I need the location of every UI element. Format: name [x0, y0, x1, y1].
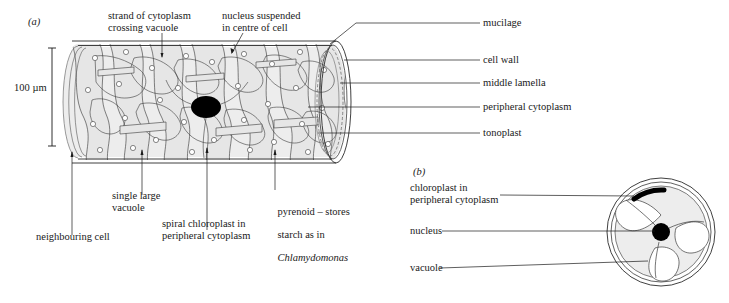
label-b-nucleus: nucleus — [410, 225, 442, 237]
label-single-large-vacuole: single large vacuole — [112, 190, 161, 213]
part-label-b: (b) — [413, 166, 425, 177]
label-strand-of-cytoplasm: strand of cytoplasm crossing vacuole — [108, 10, 191, 33]
label-pyrenoid: pyrenoid – stores starch as in Chlamydom… — [267, 194, 350, 275]
pyrenoid-line-1: pyrenoid – stores — [278, 206, 350, 217]
label-mucilage: mucilage — [483, 17, 521, 29]
label-peripheral-cytoplasm: peripheral cytoplasm — [483, 101, 571, 113]
leader-mucilage — [330, 23, 480, 44]
scale-bar-label: 100 µm — [14, 82, 47, 94]
label-cell-wall: cell wall — [483, 54, 519, 66]
diagram-canvas — [0, 0, 729, 303]
spirogyra-cell-diagram: (a) 100 µm strand of cytoplasm crossing … — [0, 0, 729, 303]
label-middle-lamella: middle lamella — [483, 77, 546, 89]
label-nucleus-suspended: nucleus suspended in centre of cell — [222, 10, 300, 33]
nucleus-shape — [191, 96, 221, 118]
label-b-chloroplast: chloroplast in peripheral cytoplasm — [410, 182, 498, 205]
leader-b-chloroplast — [500, 195, 634, 196]
scale-bar — [48, 48, 56, 146]
part-label-a: (a) — [28, 16, 40, 27]
pyrenoid-line-2: starch as in — [278, 229, 325, 240]
nucleus-cross-section — [652, 223, 670, 241]
leader-b-vacuole — [440, 261, 648, 268]
label-neighbouring-cell: neighbouring cell — [36, 231, 110, 243]
label-b-vacuole: vacuole — [410, 262, 443, 274]
label-spiral-chloroplast: spiral chloroplast in peripheral cytopla… — [162, 218, 250, 241]
pyrenoid-line-3-species: Chlamydomonas — [278, 252, 349, 263]
label-tonoplast: tonoplast — [483, 127, 522, 139]
